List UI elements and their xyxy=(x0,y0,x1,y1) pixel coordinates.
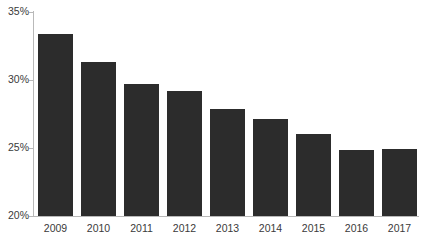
bar-2010 xyxy=(81,62,116,216)
x-axis-label-2013: 2013 xyxy=(206,222,249,234)
plot-area: 200920102011201220132014201520162017 xyxy=(0,0,423,244)
x-axis-label-2011: 2011 xyxy=(120,222,163,234)
x-axis-label-2016: 2016 xyxy=(335,222,378,234)
x-axis-label-2014: 2014 xyxy=(249,222,292,234)
bar-2014 xyxy=(253,119,288,216)
bar-2012 xyxy=(167,91,202,216)
bar-2017 xyxy=(382,149,417,216)
bar-2009 xyxy=(38,34,73,216)
x-axis-label-2010: 2010 xyxy=(77,222,120,234)
x-axis-label-2015: 2015 xyxy=(292,222,335,234)
bar-2016 xyxy=(339,150,374,216)
bar-2013 xyxy=(210,109,245,216)
x-axis-label-2009: 2009 xyxy=(34,222,77,234)
bar-2015 xyxy=(296,134,331,216)
x-axis-label-2012: 2012 xyxy=(163,222,206,234)
bar-2011 xyxy=(124,84,159,216)
x-axis-label-2017: 2017 xyxy=(378,222,421,234)
bar-chart: 35% 30% 25% 20% 200920102011201220132014… xyxy=(0,0,423,244)
